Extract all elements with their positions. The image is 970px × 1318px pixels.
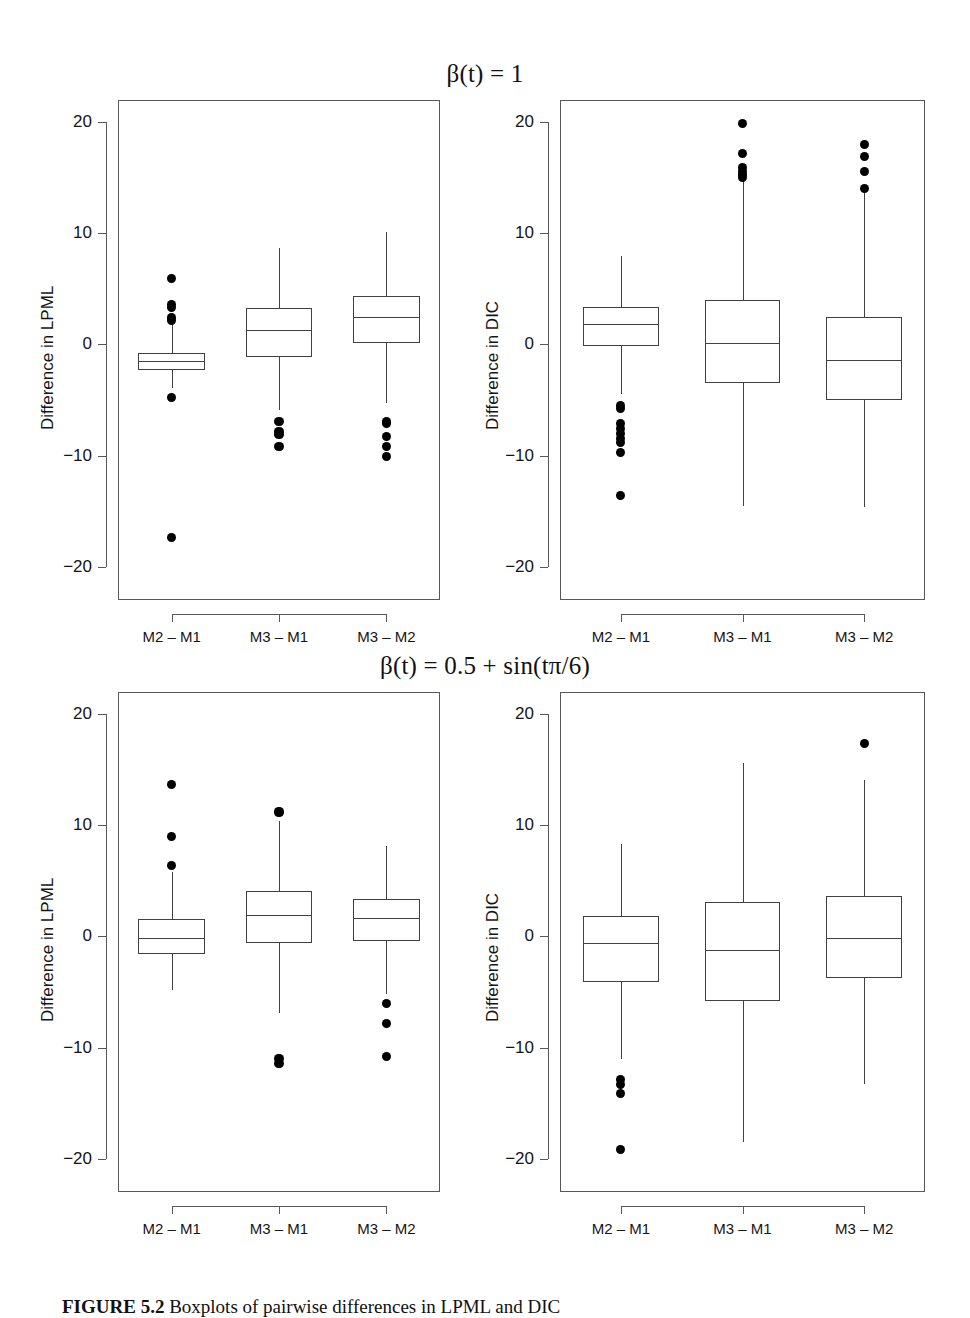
- boxplot-panel-bottom-right: 20100−10−20Difference in DICM2 – M1M3 – …: [0, 0, 970, 1260]
- y-axis-label: Difference in DIC: [483, 893, 503, 1022]
- figure-caption-label: FIGURE 5.2: [62, 1296, 164, 1317]
- x-axis-tick: [864, 1206, 865, 1214]
- x-axis-tick: [621, 1206, 622, 1214]
- y-axis-tick: [540, 714, 548, 715]
- x-axis-tick-label: M3 – M2: [794, 1220, 934, 1237]
- x-axis-tick: [743, 1206, 744, 1214]
- y-axis-tick-label: 20: [482, 704, 534, 724]
- boxplot-lower-whisker: [864, 978, 865, 1085]
- boxplot-box: [705, 902, 780, 1001]
- y-axis-tick: [540, 825, 548, 826]
- boxplot-outlier-point: [860, 739, 869, 748]
- y-axis-tick: [540, 1159, 548, 1160]
- boxplot-box: [583, 916, 658, 982]
- boxplot-upper-whisker: [743, 763, 744, 902]
- boxplot-median-line: [705, 950, 780, 951]
- y-axis-tick-label: 10: [482, 815, 534, 835]
- x-axis-tick-label: M3 – M1: [673, 1220, 813, 1237]
- figure-caption: FIGURE 5.2 Boxplots of pairwise differen…: [62, 1296, 962, 1318]
- y-axis-tick-label: −20: [482, 1149, 534, 1169]
- y-axis-tick: [540, 936, 548, 937]
- boxplot-upper-whisker: [864, 780, 865, 897]
- figure-root: β(t) = 1 β(t) = 0.5 + sin(tπ/6) 20100−10…: [0, 0, 970, 1318]
- boxplot-lower-whisker: [621, 982, 622, 1059]
- x-axis-tick-label: M2 – M1: [551, 1220, 691, 1237]
- y-axis-line: [548, 714, 549, 1158]
- boxplot-upper-whisker: [621, 844, 622, 916]
- boxplot-median-line: [826, 938, 901, 939]
- boxplot-median-line: [583, 943, 658, 944]
- boxplot-lower-whisker: [743, 1001, 744, 1142]
- y-axis-tick: [540, 1048, 548, 1049]
- boxplot-outlier-point: [616, 1089, 625, 1098]
- figure-caption-text: Boxplots of pairwise differences in LPML…: [169, 1296, 560, 1317]
- y-axis-tick-label: −10: [482, 1038, 534, 1058]
